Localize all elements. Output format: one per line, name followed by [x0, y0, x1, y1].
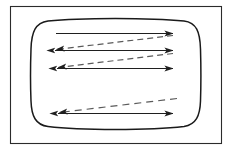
shear-dashed-arrow-2: [58, 54, 173, 68]
shear-dashed-arrow-1: [56, 36, 173, 50]
solid-arrow-group: [55, 34, 173, 114]
figure-container: [0, 0, 232, 150]
outer-frame: [11, 7, 222, 144]
figure-canvas: [0, 0, 232, 150]
dashed-arrow-group: [56, 36, 177, 113]
rounded-barrel-shape: [31, 18, 201, 129]
shear-dashed-arrow-3: [59, 99, 177, 113]
